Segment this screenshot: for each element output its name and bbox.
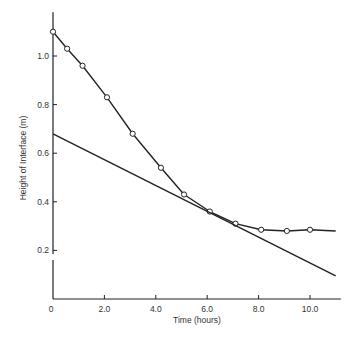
x-tick-label: 0 (49, 304, 54, 314)
x-tick-label: 2.0 (98, 304, 110, 314)
data-point-marker (181, 192, 186, 197)
x-tick-label: 6.0 (201, 304, 213, 314)
data-point-marker (80, 63, 85, 68)
data-point-marker (259, 227, 264, 232)
data-point-marker (65, 46, 70, 51)
data-point-marker (104, 95, 109, 100)
data-series (50, 29, 335, 276)
measured-curve-line (53, 32, 336, 231)
tangent-line (53, 134, 336, 276)
data-point-marker (130, 131, 135, 136)
x-axis-title: Time (hours) (173, 315, 221, 325)
y-tick-label: 0.4 (37, 197, 49, 207)
x-tick-label: 8.0 (253, 304, 265, 314)
data-point-marker (284, 228, 289, 233)
y-tick-label: 0.6 (37, 148, 49, 158)
y-tick-label: 0.2 (37, 245, 49, 255)
settling-curve-chart: 02.04.06.08.010.0 0.20.40.60.81.0 Time (… (0, 0, 358, 338)
data-point-marker (158, 165, 163, 170)
y-axis-ticks: 0.20.40.60.81.0 (37, 51, 57, 255)
data-point-marker (307, 227, 312, 232)
x-tick-label: 4.0 (150, 304, 162, 314)
y-tick-label: 0.8 (37, 100, 49, 110)
y-axis-title: Height of Interface (m) (18, 116, 28, 201)
x-tick-label: 10.0 (302, 304, 319, 314)
x-axis-ticks: 02.04.06.08.010.0 (49, 295, 319, 314)
data-point-marker (50, 29, 55, 34)
y-tick-label: 1.0 (37, 51, 49, 61)
